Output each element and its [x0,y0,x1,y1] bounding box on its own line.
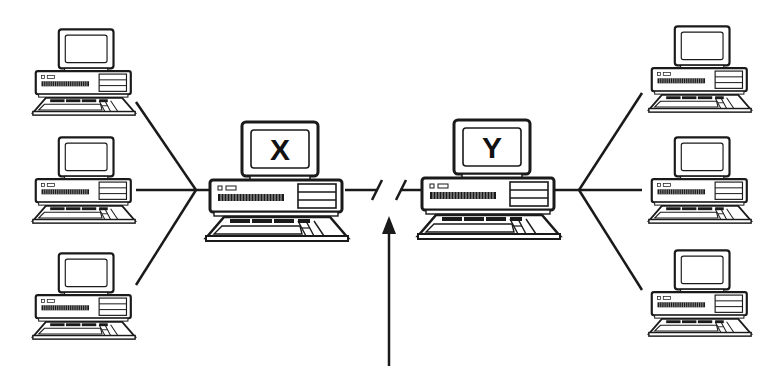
host-y-label: Y [482,131,502,164]
client-computer-left-2 [33,137,135,223]
client-computer-left-3 [33,253,135,339]
client-computer-right-2 [649,137,751,223]
network-diagram: X Y [0,0,772,372]
host-computer-x: X [206,122,348,241]
host-x-label: X [270,133,290,166]
host-computer-y: Y [418,120,560,239]
client-computer-left-1 [33,29,135,115]
right-cluster-links [552,93,642,290]
break-arrow [382,216,396,366]
client-computer-right-3 [649,250,751,336]
client-computer-right-1 [649,26,751,112]
